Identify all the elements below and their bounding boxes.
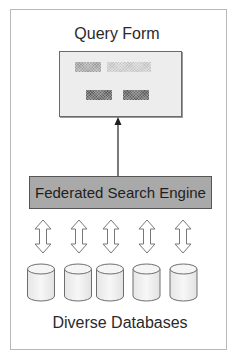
double-arrow-icon [71,220,87,253]
database-cylinder-icon [28,264,55,301]
database-cylinder-icon [97,264,124,301]
diverse-databases-label: Diverse Databases [0,314,234,332]
double-arrow-icon [139,220,155,253]
database-cylinder-icon [133,264,160,301]
database-cylinder-icon [65,264,92,301]
federated-search-engine-label: Federated Search Engine [35,184,206,201]
database-cylinder-icon [170,264,197,301]
federated-search-engine-box: Federated Search Engine [29,176,212,209]
up-arrow-icon [115,117,122,176]
double-arrow-icon [35,220,51,253]
double-arrow-icon [175,220,191,253]
double-arrow-icon [103,220,119,253]
